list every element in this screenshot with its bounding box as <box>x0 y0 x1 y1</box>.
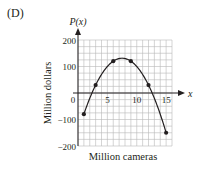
x-axis-name: x <box>187 88 193 99</box>
x-axis-label: Million cameras <box>89 151 158 162</box>
data-point-marker <box>82 112 86 116</box>
y-tick-label: 200 <box>63 36 77 46</box>
y-tick-label: 100 <box>63 62 77 72</box>
x-axis-arrow-icon <box>178 90 185 96</box>
y-tick-label: −200 <box>57 142 76 152</box>
x-tick-label: 0 <box>71 95 76 105</box>
axis-labels: 200100−100−200051015P(x)xMillion cameras… <box>42 16 193 162</box>
data-point-marker <box>94 83 98 87</box>
x-tick-label: 15 <box>162 95 172 105</box>
y-axis-label: Million dollars <box>42 62 53 125</box>
x-tick-label: 10 <box>132 95 142 105</box>
x-tick-label: 5 <box>105 95 110 105</box>
data-point-marker <box>146 83 150 87</box>
data-point-marker <box>129 59 133 63</box>
data-point-marker <box>111 59 115 63</box>
data-point-marker <box>164 131 168 135</box>
y-axis-arrow-icon <box>75 28 81 35</box>
y-tick-label: −100 <box>57 115 76 125</box>
y-axis-name: P(x) <box>68 16 87 28</box>
profit-chart: 200100−100−200051015P(x)xMillion cameras… <box>0 0 199 170</box>
